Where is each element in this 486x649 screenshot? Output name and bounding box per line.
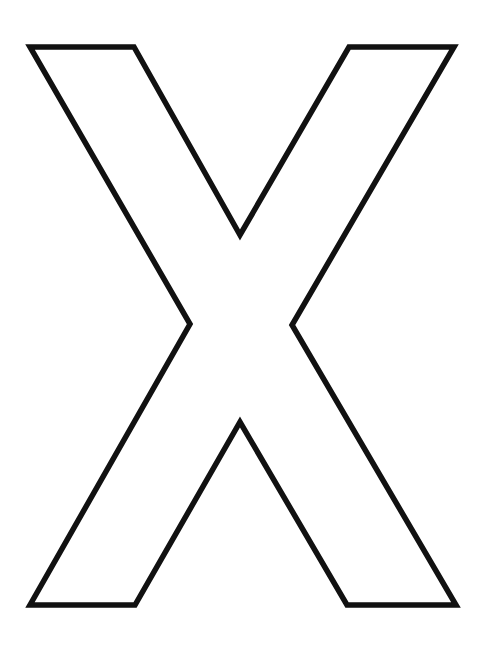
letter-x-outline-graphic: [0, 0, 486, 649]
letter-x-canvas: [0, 0, 486, 649]
